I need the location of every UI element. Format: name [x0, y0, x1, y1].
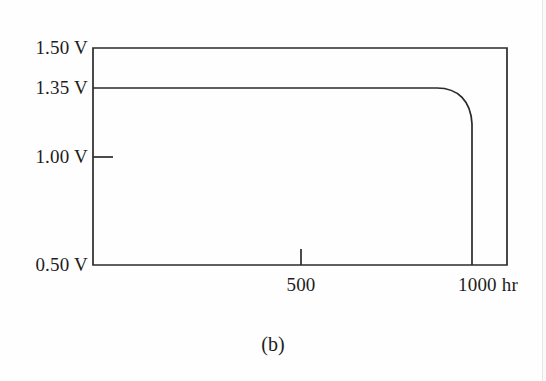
figure-caption: (b) [0, 334, 546, 354]
figure-panel-b: 1.50 V 1.35 V 1.00 V 0.50 V 500 1000 hr … [0, 0, 546, 381]
x-axis-label-500: 500 [273, 275, 329, 294]
y-axis-label-150v: 1.50 V [8, 38, 88, 57]
plot-frame [93, 48, 507, 265]
x-axis-label-1000hr: 1000 hr [440, 275, 536, 294]
discharge-curve-line [93, 88, 472, 265]
y-axis-label-135v: 1.35 V [8, 78, 88, 97]
y-axis-label-050v: 0.50 V [8, 255, 88, 274]
y-axis-label-100v: 1.00 V [8, 147, 88, 166]
